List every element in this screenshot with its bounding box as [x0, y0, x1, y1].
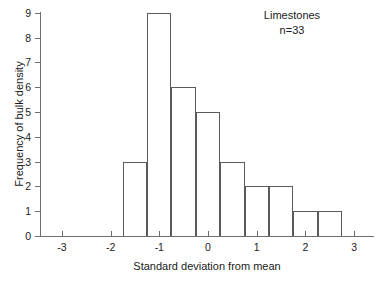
y-tick: [35, 211, 40, 212]
histogram-bar: [147, 13, 171, 236]
y-axis-line: [40, 12, 41, 237]
x-tick-label: -2: [96, 241, 126, 253]
histogram-bar: [269, 186, 293, 236]
histogram-bar: [318, 211, 342, 236]
y-axis-title: Frequency of bulk density: [13, 24, 25, 224]
annotation-line-2: n=33: [232, 23, 352, 38]
y-tick: [35, 38, 40, 39]
annotation-line-1: Limestones: [232, 8, 352, 23]
y-tick: [35, 87, 40, 88]
histogram-bar: [171, 87, 195, 236]
x-axis-line: [36, 236, 374, 237]
y-tick: [35, 162, 40, 163]
y-tick-label: 9: [0, 8, 31, 19]
y-tick: [35, 13, 40, 14]
histogram-figure: 0123456789 -3-2-10123 Limestones n=33 Fr…: [0, 0, 385, 282]
x-tick-label: -1: [144, 241, 174, 253]
x-tick-label: -3: [47, 241, 77, 253]
x-tick: [111, 231, 112, 237]
y-tick: [35, 112, 40, 113]
x-tick-label: 2: [290, 241, 320, 253]
y-tick: [35, 186, 40, 187]
y-tick: [35, 236, 40, 237]
x-tick: [354, 231, 355, 237]
x-axis-title: Standard deviation from mean: [40, 260, 374, 272]
histogram-bar: [196, 112, 220, 236]
chart-annotation: Limestones n=33: [232, 8, 352, 38]
histogram-bar: [293, 211, 317, 236]
histogram-bar: [220, 162, 244, 236]
x-tick-label: 3: [339, 241, 369, 253]
y-tick-label: 0: [0, 231, 31, 242]
x-tick-label: 1: [242, 241, 272, 253]
histogram-bar: [245, 186, 269, 236]
y-tick: [35, 62, 40, 63]
x-tick-label: 0: [193, 241, 223, 253]
histogram-bar: [123, 162, 147, 236]
y-tick: [35, 137, 40, 138]
x-tick: [62, 231, 63, 237]
plot-area: 0123456789 -3-2-10123 Limestones n=33 Fr…: [0, 0, 385, 282]
